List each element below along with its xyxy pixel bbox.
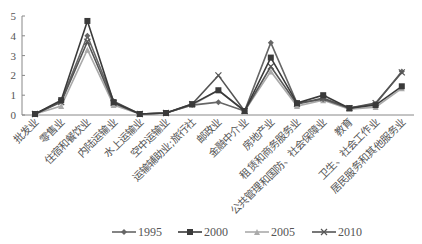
square-marker [137,111,143,117]
legend-label: 1995 [138,225,162,239]
square-marker [189,101,195,107]
square-marker [163,110,169,116]
square-marker [294,100,300,106]
x-category-label: 教育 [332,116,355,139]
square-marker [373,102,379,108]
square-marker [32,111,38,117]
diamond-marker [268,40,274,46]
y-tick-label: 1 [11,89,17,101]
square-marker [346,105,352,111]
legend-item-1995: 1995 [112,225,162,239]
y-tick-label: 3 [11,50,17,62]
y-tick-label: 5 [11,10,17,22]
square-marker [84,18,90,24]
square-marker [187,229,193,235]
diamond-marker [121,229,127,235]
series-lines [32,18,405,117]
legend: 1995200020052010 [112,225,362,239]
square-marker [320,92,326,98]
square-marker [399,83,405,89]
square-marker [242,108,248,114]
square-marker [111,99,117,105]
y-tick-label: 2 [11,69,17,81]
legend-item-2005: 2005 [245,225,295,239]
x-axis-labels: 批发业零售业住宿和餐饮业内陆运输业水上运输业空中运输业运输辅助业;旅行社邮政业金… [11,115,407,216]
legend-label: 2010 [338,225,362,239]
legend-label: 2000 [204,225,228,239]
legend-label: 2005 [271,225,295,239]
y-tick-label: 4 [11,30,17,42]
axes: 012345 [11,10,415,121]
square-marker [215,87,221,93]
square-marker [58,97,64,103]
cross-marker [215,72,221,78]
diamond-marker [84,33,90,39]
line-chart: 012345 批发业零售业住宿和餐饮业内陆运输业水上运输业空中运输业运输辅助业;… [0,0,422,244]
y-tick-label: 0 [11,109,17,121]
square-marker [268,55,274,61]
legend-item-2000: 2000 [178,225,228,239]
diamond-marker [215,99,221,105]
legend-item-2010: 2010 [312,225,362,239]
